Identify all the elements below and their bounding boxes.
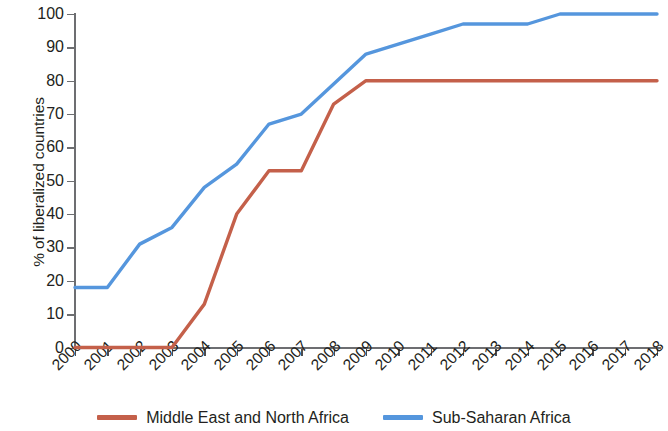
legend-label: Sub-Saharan Africa (432, 409, 571, 427)
series-line-ssa (75, 14, 657, 287)
series-plot (0, 0, 668, 431)
legend-line-swatch-icon (383, 415, 423, 419)
legend-entry-ssa[interactable]: Sub-Saharan Africa (383, 409, 571, 427)
liberalized-countries-line-chart: % of liberalized countries 0102030405060… (0, 0, 668, 431)
series-line-mena (75, 81, 657, 348)
legend-entry-mena[interactable]: Middle East and North Africa (97, 409, 349, 427)
legend-line-swatch-icon (97, 415, 137, 419)
legend-label: Middle East and North Africa (146, 409, 349, 427)
legend: Middle East and North AfricaSub-Saharan … (0, 404, 668, 431)
